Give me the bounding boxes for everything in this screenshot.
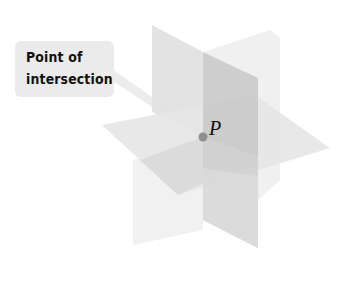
intersection-point bbox=[199, 133, 208, 142]
point-label: P bbox=[209, 117, 221, 140]
callout-label: Point of intersection bbox=[26, 46, 113, 90]
vertical-plane-right-lower-shade bbox=[203, 168, 258, 248]
